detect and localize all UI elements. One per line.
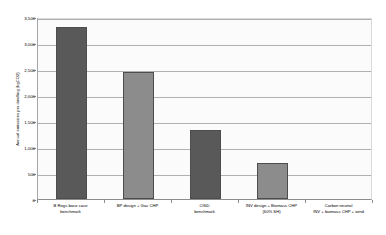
y-axis-tick-label: 1,500 [3,120,35,125]
y-axis-tick-mark [33,96,36,97]
y-axis-tick-mark [33,44,36,45]
gridline [38,19,371,20]
y-axis-tick-mark [33,174,36,175]
y-axis-tick-label: 3,500 [3,16,35,21]
y-axis-tick-label: 2,500 [3,68,35,73]
bar [190,130,221,199]
bar [56,27,87,199]
gridline [38,45,371,46]
y-axis-tick-label: 2,000 [3,94,35,99]
gridline [38,123,371,124]
x-axis-label-line: benchmark [31,209,110,215]
y-axis-tick-group: 05001,0001,5002,0002,5003,0003,500 [0,18,35,200]
y-axis-tick-label: 0 [3,198,35,203]
bar [257,163,288,199]
y-axis-tick-label: 3,000 [3,42,35,47]
bar-chart: Annual emissions per dwelling (kgCO2) 05… [0,0,386,235]
y-axis-tick-mark [33,122,36,123]
y-axis-tick-label: 500 [3,172,35,177]
x-axis-label-line: INV + biomass CHP + wind [299,209,378,215]
plot-area [37,18,372,200]
y-axis-tick-mark [33,200,36,201]
x-axis-tick-mark [372,200,373,203]
y-axis-tick-mark [33,18,36,19]
y-axis-tick-label: 1,000 [3,146,35,151]
gridline [38,97,371,98]
x-axis-tick-label: Carbon neutralINV + biomass CHP + wind [299,203,378,215]
y-axis-tick-mark [33,70,36,71]
y-axis-tick-mark [33,148,36,149]
gridline [38,71,371,72]
bar [123,72,154,199]
x-axis-label-group: B Regs base casebenchmarkBP design + Gas… [37,203,372,233]
